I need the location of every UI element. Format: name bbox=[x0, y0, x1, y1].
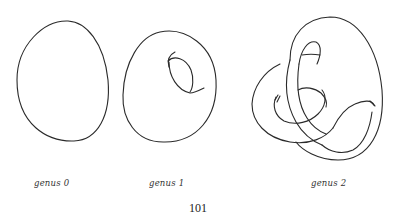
genus-2-upper-hook bbox=[299, 42, 320, 64]
caption-genus-0: genus 0 bbox=[34, 178, 69, 188]
genus-2-right-lobe-outer bbox=[333, 101, 374, 128]
genus-2-tube-left bbox=[287, 60, 322, 145]
genus-2-tube-right bbox=[298, 64, 326, 134]
caption-genus-2: genus 2 bbox=[311, 178, 346, 188]
torus-outline bbox=[123, 31, 216, 142]
genus-2-upper-hook-rim bbox=[302, 54, 320, 55]
genus-2-tail-mark-right bbox=[370, 101, 375, 106]
genus-0-drawing bbox=[17, 21, 108, 141]
genus-1-drawing bbox=[123, 31, 216, 142]
caption-genus-1: genus 1 bbox=[149, 178, 184, 188]
genus-2-left-loop-inner bbox=[274, 90, 325, 123]
genus-2-drawing bbox=[252, 17, 382, 160]
page-number: 101 bbox=[189, 201, 207, 216]
torus-hole-lower bbox=[169, 62, 204, 93]
sphere-outline bbox=[17, 21, 108, 141]
genus-2-left-loop-outer bbox=[252, 64, 333, 143]
genus-2-tail-mark-left bbox=[275, 95, 280, 102]
